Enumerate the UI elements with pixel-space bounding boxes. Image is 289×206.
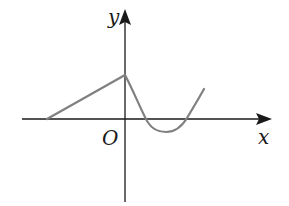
y-axis-label: y (107, 5, 120, 29)
function-graph: y x O (0, 0, 289, 206)
function-curve (125, 75, 204, 132)
linear-segment (47, 75, 125, 119)
x-axis-label: x (258, 125, 269, 149)
origin-label: O (102, 126, 118, 150)
